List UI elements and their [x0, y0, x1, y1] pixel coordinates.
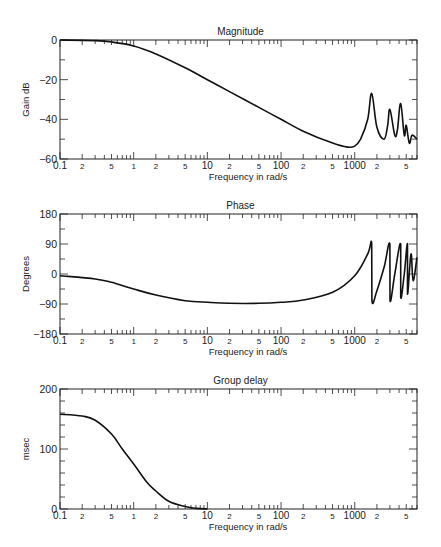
group-delay-y-ticks: 2001000: [39, 383, 417, 515]
svg-text:5: 5: [183, 512, 188, 521]
magnitude-curve: [60, 40, 417, 147]
svg-text:2: 2: [80, 337, 85, 346]
svg-text:5: 5: [257, 512, 262, 521]
svg-text:5: 5: [330, 337, 335, 346]
magnitude-title: Magnitude: [217, 26, 264, 37]
svg-text:5: 5: [257, 337, 262, 346]
svg-text:−180: −180: [33, 328, 57, 340]
svg-text:200: 200: [39, 383, 57, 395]
svg-text:2: 2: [227, 337, 232, 346]
svg-text:5: 5: [404, 162, 409, 171]
svg-text:2: 2: [375, 512, 380, 521]
svg-text:0: 0: [51, 34, 57, 46]
group-delay-chart: Group delay0.125125102510025100025Freque…: [20, 375, 417, 532]
svg-text:1: 1: [131, 512, 136, 521]
svg-text:100: 100: [273, 160, 290, 171]
phase-chart: Phase0.125125102510025100025Frequency in…: [20, 200, 417, 357]
svg-text:2: 2: [375, 337, 380, 346]
svg-text:2: 2: [154, 512, 159, 521]
svg-text:5: 5: [109, 337, 114, 346]
svg-text:100: 100: [39, 443, 57, 455]
magnitude-y-ticks: 0−20−40−60: [39, 34, 417, 165]
phase-y-axis-label: Degrees: [20, 256, 31, 292]
svg-text:5: 5: [330, 162, 335, 171]
svg-text:0: 0: [51, 268, 57, 280]
svg-text:1000: 1000: [344, 160, 367, 171]
svg-text:1000: 1000: [344, 510, 367, 521]
magnitude-x-tick-labels: 0.125125102510025100025: [53, 160, 409, 171]
svg-text:2: 2: [227, 162, 232, 171]
bode-plots-figure: Magnitude0.125125102510025100025Frequenc…: [0, 0, 441, 547]
phase-title: Phase: [226, 200, 255, 211]
group-delay-frame: [60, 389, 417, 509]
svg-text:2: 2: [80, 512, 85, 521]
svg-text:5: 5: [109, 162, 114, 171]
svg-text:5: 5: [330, 512, 335, 521]
group-delay-x-axis-label: Frequency in rad/s: [209, 521, 288, 532]
svg-text:0: 0: [51, 503, 57, 515]
svg-text:100: 100: [273, 335, 290, 346]
phase-frame: [60, 214, 417, 334]
svg-text:1: 1: [131, 337, 136, 346]
svg-text:10: 10: [202, 335, 214, 346]
magnitude-y-axis-label: Gain dB: [20, 82, 31, 116]
svg-text:−40: −40: [39, 113, 57, 125]
group-delay-title: Group delay: [213, 375, 267, 386]
svg-text:5: 5: [404, 512, 409, 521]
phase-x-tick-labels: 0.125125102510025100025: [53, 335, 409, 346]
svg-text:2: 2: [301, 337, 306, 346]
svg-text:5: 5: [183, 162, 188, 171]
svg-text:5: 5: [404, 337, 409, 346]
svg-text:2: 2: [301, 162, 306, 171]
svg-text:10: 10: [202, 510, 214, 521]
svg-text:100: 100: [273, 510, 290, 521]
magnitude-frame: [60, 40, 417, 159]
svg-text:2: 2: [154, 337, 159, 346]
svg-text:−60: −60: [39, 153, 57, 165]
group-delay-y-axis-label: msec: [20, 437, 31, 460]
svg-text:2: 2: [301, 512, 306, 521]
svg-text:−90: −90: [39, 298, 57, 310]
svg-text:5: 5: [257, 162, 262, 171]
svg-text:2: 2: [375, 162, 380, 171]
svg-text:5: 5: [183, 337, 188, 346]
svg-text:2: 2: [154, 162, 159, 171]
phase-y-ticks: 180900−90−180: [33, 208, 417, 340]
svg-text:1000: 1000: [344, 335, 367, 346]
svg-text:5: 5: [109, 512, 114, 521]
group-delay-x-ticks: [60, 389, 417, 509]
group-delay-curve: [60, 414, 207, 509]
svg-text:1: 1: [131, 162, 136, 171]
svg-text:2: 2: [80, 162, 85, 171]
magnitude-x-ticks: [60, 40, 417, 159]
svg-text:90: 90: [45, 238, 57, 250]
phase-x-ticks: [60, 214, 417, 334]
magnitude-x-axis-label: Frequency in rad/s: [209, 171, 288, 182]
svg-text:2: 2: [227, 512, 232, 521]
group-delay-x-tick-labels: 0.125125102510025100025: [53, 510, 409, 521]
svg-text:−20: −20: [39, 74, 57, 86]
phase-x-axis-label: Frequency in rad/s: [209, 346, 288, 357]
magnitude-chart: Magnitude0.125125102510025100025Frequenc…: [20, 26, 417, 182]
svg-text:180: 180: [39, 208, 57, 220]
phase-curve: [60, 241, 417, 303]
svg-text:10: 10: [202, 160, 214, 171]
